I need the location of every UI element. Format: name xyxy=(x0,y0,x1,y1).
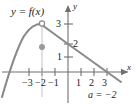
open-circle-discontinuity-marker xyxy=(39,21,44,26)
x-axis-label: x xyxy=(127,63,131,72)
a-value-annotation: a = −2 xyxy=(88,90,117,100)
x-tick-label--2: −2 xyxy=(35,78,46,88)
x-tick-label-1: 1 xyxy=(76,78,81,88)
x-tick-label--1: −1 xyxy=(48,78,59,88)
y-axis-label: y xyxy=(73,2,77,11)
y-tick-label-1: 1 xyxy=(57,52,62,62)
y-tick-label-3: 3 xyxy=(56,19,61,29)
filled-dot-function-value-marker xyxy=(39,44,44,49)
x-tick-label-3: 3 xyxy=(102,78,107,88)
y-tick-label-2: 2 xyxy=(73,39,78,49)
curve-label: y = f(x) xyxy=(11,6,44,17)
x-tick-label--3: −3 xyxy=(22,78,33,88)
x-tick-label-2: 2 xyxy=(89,78,94,88)
